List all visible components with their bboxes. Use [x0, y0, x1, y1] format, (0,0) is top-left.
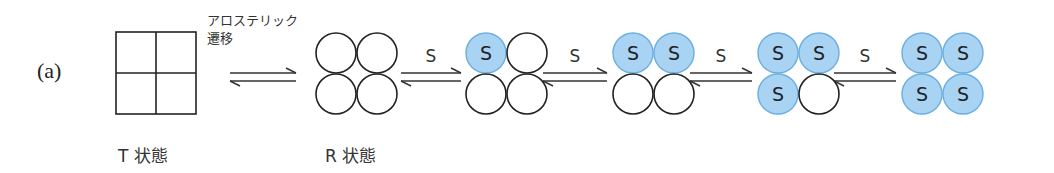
allosteric-diagram: SSSSSSSSSS SSSS	[0, 0, 1054, 173]
arrow-label-substrate: S	[426, 46, 437, 66]
subunit-group: SS	[613, 33, 694, 114]
substrate-label: S	[916, 83, 928, 105]
empty-subunit	[466, 74, 506, 114]
arrow-label-substrate: S	[860, 46, 871, 66]
substrate-label: S	[957, 42, 969, 64]
substrate-label: S	[957, 83, 969, 105]
substrate-label: S	[772, 83, 784, 105]
empty-subunit	[799, 74, 839, 114]
substrate-label: S	[916, 42, 928, 64]
empty-subunit	[357, 33, 397, 73]
subunit-group	[316, 33, 397, 114]
substrate-label: S	[627, 42, 639, 64]
empty-subunit	[507, 74, 547, 114]
equilibrium-arrow	[230, 68, 296, 86]
equilibrium-arrow	[543, 68, 607, 86]
subunit-group: S	[466, 33, 547, 114]
subunit-group: SSSS	[902, 33, 983, 114]
subunit-group: SSS	[758, 33, 839, 114]
substrate-label: S	[668, 42, 680, 64]
equilibrium-arrow	[834, 68, 896, 86]
arrow-label-substrate: S	[716, 46, 727, 66]
empty-subunit	[613, 74, 653, 114]
empty-subunit	[316, 33, 356, 73]
empty-subunit	[654, 74, 694, 114]
arrow-label-substrate: S	[570, 46, 581, 66]
empty-subunit	[507, 33, 547, 73]
t-state-square	[116, 32, 196, 114]
empty-subunit	[357, 74, 397, 114]
substrate-label: S	[480, 42, 492, 64]
substrate-label: S	[813, 42, 825, 64]
equilibrium-arrow	[690, 68, 752, 86]
equilibrium-arrow	[401, 68, 461, 86]
substrate-label: S	[772, 42, 784, 64]
empty-subunit	[316, 74, 356, 114]
